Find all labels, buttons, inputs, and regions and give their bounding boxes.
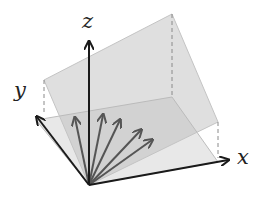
z-axis-label: z [82, 11, 93, 32]
x-axis-label: x [237, 147, 249, 168]
y-axis-label: y [14, 80, 26, 101]
diagram-canvas [0, 0, 261, 197]
